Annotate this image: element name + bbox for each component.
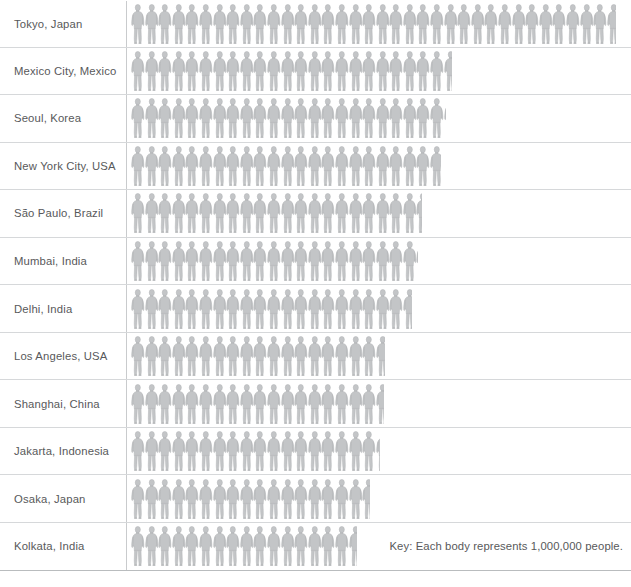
person-icon [145, 289, 159, 329]
person-icon [294, 146, 308, 186]
person-icon [335, 336, 349, 376]
person-icon [172, 526, 186, 566]
chart-row: Los Angeles, USA [0, 333, 631, 381]
figure-group [131, 479, 370, 519]
person-icon [335, 241, 349, 281]
person-icon [281, 146, 295, 186]
person-icon [308, 146, 322, 186]
person-icon [335, 98, 349, 138]
chart-row: Delhi, India [0, 285, 631, 333]
person-icon [185, 98, 199, 138]
person-icon [362, 51, 376, 91]
person-icon [267, 146, 281, 186]
person-icon-partial [444, 51, 452, 91]
person-icon [376, 193, 390, 233]
person-icon [172, 479, 186, 519]
person-icon [253, 98, 267, 138]
person-icon [172, 289, 186, 329]
person-icon [226, 336, 240, 376]
chart-row: Tokyo, Japan [0, 0, 631, 48]
figure-group [131, 4, 616, 44]
person-icon [213, 241, 227, 281]
person-icon [172, 384, 186, 424]
person-icon [240, 289, 254, 329]
figure-group [131, 51, 452, 91]
person-icon [226, 146, 240, 186]
pictogram-bar: Key: Each body represents 1,000,000 peop… [127, 523, 631, 570]
person-icon [145, 526, 159, 566]
person-icon [389, 98, 403, 138]
person-icon [308, 479, 322, 519]
person-icon [335, 289, 349, 329]
chart-row: Mexico City, Mexico [0, 48, 631, 96]
person-icon [430, 4, 444, 44]
figure-group [131, 193, 422, 233]
person-icon [335, 146, 349, 186]
person-icon [172, 146, 186, 186]
person-icon [512, 4, 526, 44]
person-icon [158, 193, 172, 233]
person-icon [294, 526, 308, 566]
person-icon [199, 431, 213, 471]
person-icon [131, 193, 145, 233]
person-icon [131, 289, 145, 329]
person-icon [226, 431, 240, 471]
person-icon [281, 4, 295, 44]
chart-row: Kolkata, IndiaKey: Each body represents … [0, 523, 631, 571]
person-icon [199, 289, 213, 329]
person-icon [335, 51, 349, 91]
person-icon [389, 146, 403, 186]
person-icon [349, 431, 363, 471]
row-label: Delhi, India [0, 285, 127, 332]
pictogram-bar [127, 238, 631, 285]
row-label: Osaka, Japan [0, 475, 127, 522]
person-icon [498, 4, 512, 44]
person-icon-partial [376, 384, 384, 424]
person-icon [376, 51, 390, 91]
person-icon [158, 384, 172, 424]
person-icon [430, 51, 444, 91]
person-icon [267, 431, 281, 471]
person-icon [281, 336, 295, 376]
person-icon [267, 526, 281, 566]
row-label: Jakarta, Indonesia [0, 428, 127, 475]
person-icon [145, 336, 159, 376]
person-icon [294, 431, 308, 471]
person-icon [240, 146, 254, 186]
person-icon [403, 241, 417, 281]
person-icon [213, 193, 227, 233]
person-icon [199, 336, 213, 376]
person-icon-partial [607, 4, 617, 44]
person-icon [185, 336, 199, 376]
person-icon [199, 51, 213, 91]
person-icon [294, 289, 308, 329]
person-icon [308, 4, 322, 44]
person-icon [267, 4, 281, 44]
person-icon [240, 4, 254, 44]
person-icon [566, 4, 580, 44]
person-icon [281, 479, 295, 519]
pictogram-bar [127, 285, 631, 332]
person-icon [213, 336, 227, 376]
person-icon [593, 4, 607, 44]
chart-row: Seoul, Korea [0, 95, 631, 143]
person-icon [185, 51, 199, 91]
person-icon [321, 479, 335, 519]
person-icon [281, 431, 295, 471]
person-icon [281, 526, 295, 566]
row-label: Tokyo, Japan [0, 1, 127, 47]
person-icon [294, 384, 308, 424]
person-icon [145, 4, 159, 44]
person-icon [321, 146, 335, 186]
chart-row: Osaka, Japan [0, 475, 631, 523]
person-icon [362, 289, 376, 329]
person-icon [253, 193, 267, 233]
person-icon [321, 98, 335, 138]
person-icon [362, 384, 376, 424]
person-icon [213, 384, 227, 424]
person-icon [362, 98, 376, 138]
person-icon [213, 289, 227, 329]
person-icon [213, 431, 227, 471]
person-icon [240, 51, 254, 91]
person-icon [294, 51, 308, 91]
